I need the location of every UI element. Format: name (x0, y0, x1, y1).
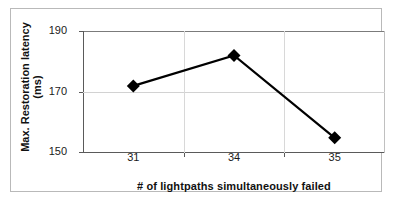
series-line-restoration-latency (133, 55, 334, 137)
x-tick-label-34: 34 (228, 152, 240, 163)
y-tick-label-150: 150 (49, 146, 67, 157)
data-series-layer (83, 31, 385, 153)
y-axis-title-line1: Max. Restoration latency (19, 22, 31, 152)
y-tick-label-190: 190 (49, 25, 67, 36)
x-tick-mark-1 (184, 153, 185, 157)
x-tick-mark-2 (284, 153, 285, 157)
y-tick-label-170: 170 (49, 86, 67, 97)
chart-figure: 190 170 150 31 34 35 (0, 0, 393, 202)
x-axis-title: # of lightpaths simultaneously failed (83, 180, 385, 192)
x-tick-label-35: 35 (329, 152, 341, 163)
series-markers (127, 49, 341, 144)
y-axis-title: Max. Restoration latency (ms) (19, 22, 43, 152)
y-axis-title-wrap: Max. Restoration latency (ms) (18, 21, 44, 153)
data-point-31[interactable] (127, 79, 140, 92)
plot-area (83, 31, 385, 153)
chart-frame: 190 170 150 31 34 35 (10, 8, 382, 192)
y-axis-title-line2: (ms) (31, 22, 43, 152)
x-tick-label-31: 31 (127, 152, 139, 163)
